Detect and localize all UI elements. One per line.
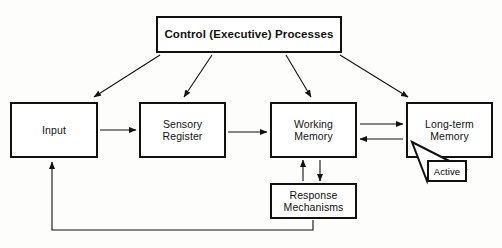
diagram-canvas: Control (Executive) Processes Input Sens… [0, 0, 502, 248]
node-response-mechanisms[interactable]: Response Mechanisms [270, 183, 357, 219]
node-control-label: Control (Executive) Processes [164, 28, 333, 42]
callout-active-label: Active [434, 166, 460, 177]
edge-control-to-sensory [184, 55, 212, 97]
node-working-memory-label: Working Memory [294, 118, 333, 143]
edge-control-to-input [94, 55, 160, 97]
node-sensory-register[interactable]: Sensory Register [139, 102, 226, 158]
node-input[interactable]: Input [10, 102, 98, 158]
node-response-mechanisms-label: Response Mechanisms [284, 189, 344, 214]
node-input-label: Input [42, 124, 66, 136]
callout-active[interactable]: Active [427, 160, 467, 182]
node-working-memory[interactable]: Working Memory [270, 102, 357, 158]
edge-control-to-working [286, 55, 311, 97]
edge-control-to-ltm [340, 55, 408, 97]
node-sensory-register-label: Sensory Register [163, 118, 203, 143]
node-control-executive-processes[interactable]: Control (Executive) Processes [156, 16, 342, 53]
